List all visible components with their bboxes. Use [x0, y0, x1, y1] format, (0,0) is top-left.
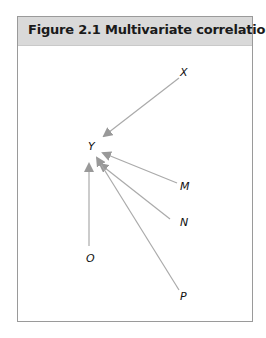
arrow-m-to-y — [103, 153, 177, 183]
arrow-x-to-y — [104, 78, 179, 136]
node-x: X — [179, 66, 188, 79]
correlation-diagram: X Y M N O P — [0, 0, 266, 338]
arrow-p-to-y — [97, 158, 179, 290]
node-m: M — [180, 180, 190, 193]
node-y: Y — [88, 140, 96, 153]
node-o: O — [86, 252, 95, 265]
node-n: N — [180, 216, 188, 229]
arrow-n-to-y — [100, 164, 170, 219]
node-p: P — [180, 290, 187, 303]
